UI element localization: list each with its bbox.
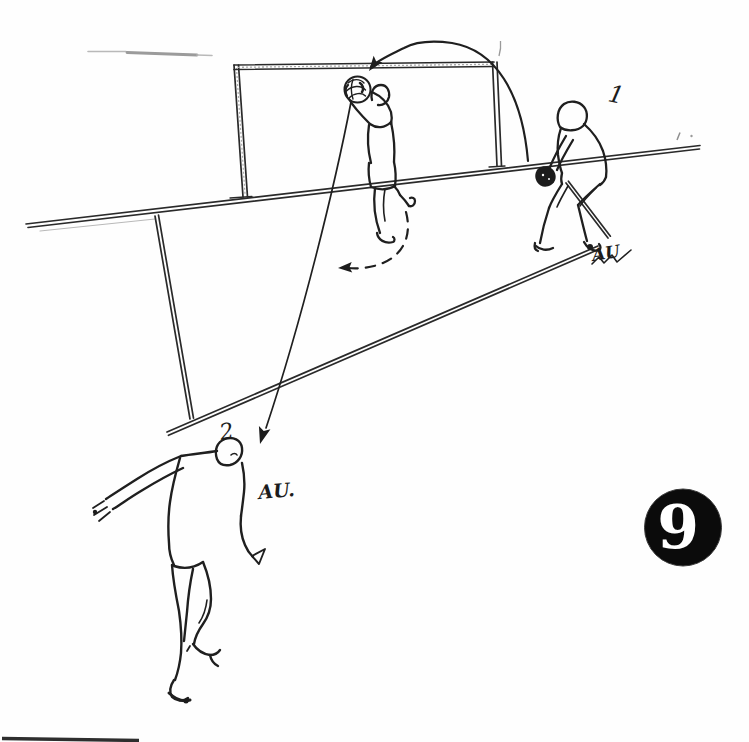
ramp-outline xyxy=(155,181,610,435)
receiver-figure xyxy=(93,438,265,703)
goalkeeper-drill-sketch: 1 2 AU AU. 9 xyxy=(0,0,749,742)
pencil-smudge xyxy=(88,52,212,56)
annotation-thrower: AU xyxy=(589,241,631,266)
goalkeeper-figure xyxy=(345,77,416,243)
arrowhead-throw xyxy=(254,426,270,446)
throw-line-arrow xyxy=(254,102,351,446)
badge-number: 9 xyxy=(657,492,699,562)
bottom-edge-rule xyxy=(2,739,139,741)
page-number-badge: 9 xyxy=(645,489,722,566)
lob-trajectory-arrow xyxy=(365,42,528,161)
sketch-page: 1 2 AU AU. 9 xyxy=(0,0,749,742)
ball-held xyxy=(535,166,555,186)
ground-line xyxy=(26,146,700,228)
thrower-figure xyxy=(535,102,607,251)
label-player-1: 1 xyxy=(606,79,627,110)
turn-arrow-dashed xyxy=(338,212,408,273)
annotation-receiver-text: AU. xyxy=(255,478,295,503)
